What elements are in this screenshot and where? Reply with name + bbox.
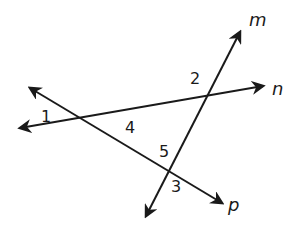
line-label-m: m	[249, 9, 267, 30]
angle-label-4: 4	[125, 118, 135, 137]
line-label-n: n	[272, 78, 283, 99]
angle-label-5: 5	[159, 142, 169, 161]
angle-label-2: 2	[190, 69, 200, 88]
line-label-p: p	[227, 194, 239, 215]
line-p	[30, 88, 222, 203]
angle-label-1: 1	[41, 107, 51, 126]
intersecting-lines-diagram: m n p 1 2 3 4 5	[0, 0, 302, 235]
line-m	[146, 32, 240, 216]
line-n	[20, 86, 263, 128]
angle-label-3: 3	[171, 177, 181, 196]
